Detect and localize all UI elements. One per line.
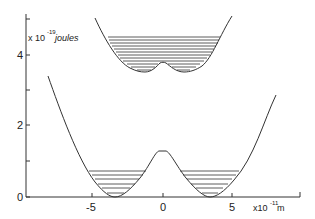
chart-svg: 0 2 4 x 10 -19 joules -5 0 5 x10 -11 m — [0, 0, 315, 219]
y-axis-label-unit: joules — [54, 33, 79, 43]
x-tick-label-5: 5 — [229, 201, 235, 213]
y-tick-label-2: 2 — [17, 119, 23, 131]
lower-left-energy-levels — [89, 171, 146, 193]
x-axis-label-base: x10 — [253, 203, 268, 213]
y-tick-label-4: 4 — [17, 49, 23, 61]
upper-potential-curve — [95, 16, 232, 72]
y-tick-label-0: 0 — [17, 191, 23, 203]
x-axis-label-unit: m — [277, 203, 285, 213]
y-axis-label-base: x 10 — [28, 33, 45, 43]
lower-potential-curve — [48, 76, 276, 197]
potential-energy-chart: 0 2 4 x 10 -19 joules -5 0 5 x10 -11 m — [0, 0, 315, 219]
x-tick-label-neg5: -5 — [86, 201, 96, 213]
x-tick-label-0: 0 — [160, 201, 166, 213]
